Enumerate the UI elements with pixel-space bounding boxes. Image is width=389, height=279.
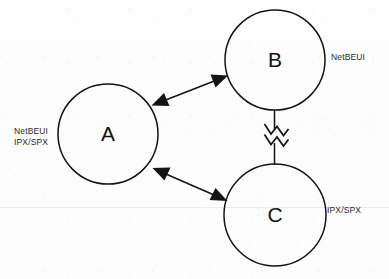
node-c-protocol-label: IPX/SPX (327, 205, 361, 216)
link-a-b-shaft (158, 78, 222, 103)
link-a-b (152, 75, 229, 107)
node-b[interactable]: B (225, 10, 325, 110)
link-a-c-shaft (159, 171, 221, 198)
link-a-b-arrowhead-to-b (211, 75, 229, 88)
node-a-protocol-line-1: NetBEUI (14, 126, 48, 137)
node-c-label: C (267, 203, 282, 226)
node-a-protocol-line-2: IPX/SPX (14, 137, 48, 148)
node-a[interactable]: A (58, 84, 158, 184)
node-c[interactable]: C (224, 164, 326, 266)
link-b-c-zigzag-lower (265, 135, 289, 147)
diagram-canvas: A B C NetBEUI IPX/SPX NetBEUI IPX/SPX (0, 0, 389, 279)
network-diagram-svg: A B C (0, 0, 389, 279)
node-c-protocol-line-1: IPX/SPX (327, 205, 361, 216)
link-b-c-zigzag-upper (265, 124, 289, 136)
link-b-c (265, 110, 289, 165)
node-a-label: A (101, 122, 115, 145)
node-b-label: B (268, 48, 282, 71)
node-b-protocol-label: NetBEUI (331, 52, 365, 63)
node-a-protocol-label: NetBEUI IPX/SPX (14, 126, 48, 148)
link-a-c (153, 168, 228, 202)
node-b-protocol-line-1: NetBEUI (331, 52, 365, 63)
